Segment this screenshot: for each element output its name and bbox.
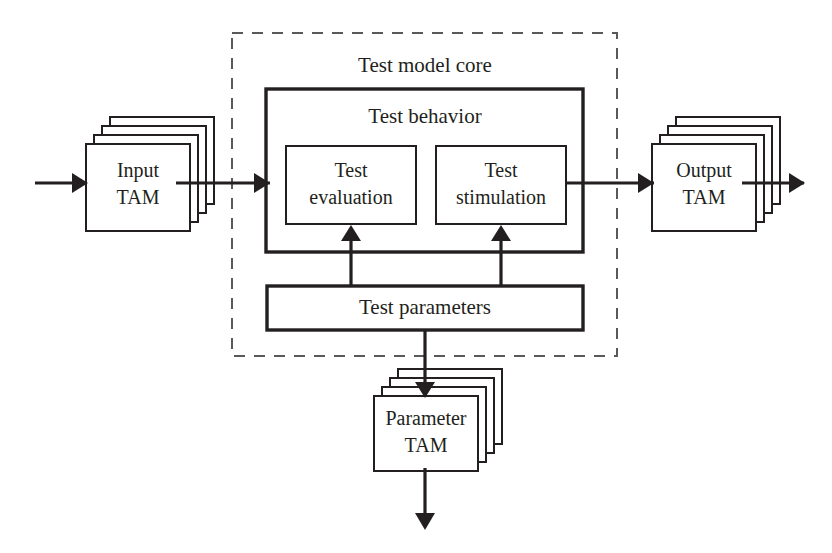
output-tam-block[interactable]: Output TAM bbox=[652, 117, 780, 231]
input-tam-label-line2: TAM bbox=[117, 186, 160, 208]
block-diagram: Test model core Test behavior Test evalu… bbox=[0, 0, 832, 553]
test-stimulation-label-line1: Test bbox=[484, 159, 517, 181]
parameter-tam-label-line2: TAM bbox=[405, 434, 448, 456]
output-tam-label-line1: Output bbox=[676, 159, 732, 182]
test-model-core-label: Test model core bbox=[358, 53, 492, 77]
test-stimulation-block[interactable]: Test stimulation bbox=[436, 146, 566, 224]
arrow-parameter-tam-to-external-out bbox=[415, 468, 435, 530]
output-tam-label-line2: TAM bbox=[683, 186, 726, 208]
test-evaluation-block[interactable]: Test evaluation bbox=[286, 146, 416, 224]
parameter-tam-label-line1: Parameter bbox=[385, 407, 466, 429]
test-evaluation-label-line2: evaluation bbox=[309, 186, 392, 208]
test-stimulation-label-line2: stimulation bbox=[456, 186, 546, 208]
input-tam-label-line1: Input bbox=[117, 159, 160, 182]
arrow-head-right bbox=[789, 173, 805, 193]
test-evaluation-label-line1: Test bbox=[334, 159, 367, 181]
test-parameters-label: Test parameters bbox=[359, 295, 491, 319]
input-tam-block[interactable]: Input TAM bbox=[86, 117, 214, 231]
arrow-external-in-to-input-tam bbox=[35, 173, 88, 193]
test-behavior-label: Test behavior bbox=[368, 104, 481, 128]
test-parameters-block[interactable]: Test parameters bbox=[267, 286, 583, 330]
diagram-canvas: Test model core Test behavior Test evalu… bbox=[0, 0, 832, 553]
arrow-head-down bbox=[415, 513, 435, 530]
parameter-tam-block[interactable]: Parameter TAM bbox=[374, 369, 502, 471]
